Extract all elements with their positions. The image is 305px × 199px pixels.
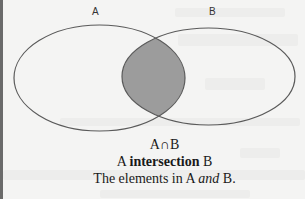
set-b-label: B [209,7,216,17]
caption-desc-suffix: B. [219,171,235,186]
venn-diagram [0,0,305,199]
textbook-page: A B A∩B A intersection B The elements in… [0,0,305,199]
caption-name-term: intersection [130,154,200,169]
caption-desc-prefix: The elements in A [93,171,198,186]
caption-name-suffix: B [199,154,212,169]
caption-desc-emphasis: and [198,171,219,186]
caption-name-prefix: A [117,154,130,169]
caption-symbol: A∩B [0,138,305,152]
caption-description: The elements in A and B. [0,172,305,186]
intersection-region [122,28,295,125]
set-a-label: A [92,7,99,17]
caption-name: A intersection B [0,155,305,169]
